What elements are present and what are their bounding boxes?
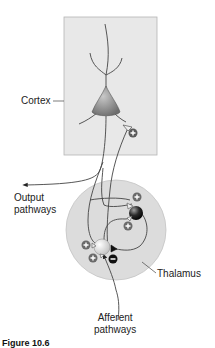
excitatory-sign-icon <box>82 241 91 250</box>
excitatory-sign-icon <box>133 193 142 202</box>
excitatory-sign-icon <box>129 129 138 138</box>
afferent-pathways-label: Afferent pathways <box>94 312 136 336</box>
thalamus-region <box>66 180 166 280</box>
afferent-label-line-2: pathways <box>94 324 136 336</box>
thalamus-label: Thalamus <box>157 268 201 280</box>
excitatory-sign-icon <box>124 222 133 231</box>
output-label-line-1: Output <box>14 192 56 204</box>
excitatory-sign-icon <box>89 254 98 263</box>
figure-caption: Figure 10.6 <box>2 338 50 348</box>
cortex-label: Cortex <box>21 95 50 107</box>
cortex-region <box>64 17 157 155</box>
output-pathways-label: Output pathways <box>14 192 56 216</box>
inhibitory-sign-icon <box>109 255 118 264</box>
output-label-line-2: pathways <box>14 204 56 216</box>
thalamic-relay-neuron <box>94 239 110 255</box>
afferent-label-line-1: Afferent <box>94 312 136 324</box>
